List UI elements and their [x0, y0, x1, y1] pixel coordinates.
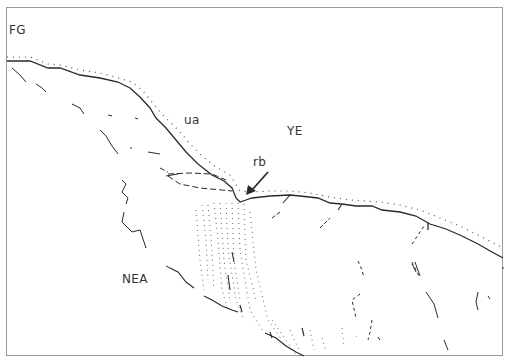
fault-trace: [148, 152, 160, 154]
dash-marks: [228, 252, 304, 338]
geological-sketch-map: [0, 0, 509, 362]
label-ye: YE: [287, 125, 303, 137]
label-fg: FG: [9, 24, 26, 36]
fault-trace: [100, 130, 118, 154]
branch-line: [283, 195, 290, 203]
fault-trace: [160, 168, 168, 172]
fault-trace: [72, 104, 84, 114]
branch-line: [338, 204, 342, 210]
fault-trace: [122, 180, 128, 204]
fault-trace: [122, 212, 146, 248]
label-nea: NEA: [122, 273, 148, 285]
right-dashed-traces: [272, 212, 504, 350]
fault-trace: [265, 333, 304, 356]
label-ua: ua: [184, 114, 200, 126]
fault-trace: [204, 296, 238, 312]
fault-trace: [135, 118, 138, 119]
scattered-dots: [342, 328, 358, 346]
label-rb: rb: [253, 156, 266, 168]
fault-trace: [12, 68, 26, 82]
fault-trace: [170, 268, 194, 288]
fault-trace: [108, 115, 112, 116]
dotted-shear-zone: [196, 203, 326, 355]
arrow-line: [252, 172, 268, 190]
dotted-boundary-line: [7, 57, 503, 248]
fault-trace: [36, 84, 46, 92]
fault-trace: [166, 266, 170, 268]
